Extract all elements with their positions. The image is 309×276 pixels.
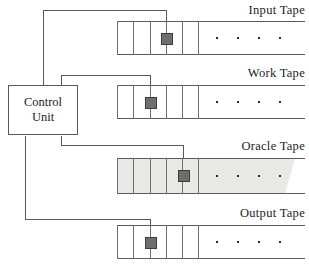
tape-input-cell-divider <box>117 21 118 55</box>
tape-input-cell-divider <box>133 21 134 55</box>
tape-oracle-ellipsis-dot <box>258 175 260 177</box>
tape-oracle-ellipsis-dot <box>237 175 239 177</box>
control-unit-label-line2: Unit <box>32 110 54 125</box>
tape-output-ellipsis-dot <box>258 241 260 243</box>
tape-oracle-cell-divider <box>150 158 151 194</box>
tape-head-input[interactable] <box>161 33 173 45</box>
tape-label-work: Work Tape <box>189 66 305 81</box>
tape-work-ellipsis-dot <box>279 101 281 103</box>
tape-oracle-body <box>117 158 305 194</box>
tape-input-cell-divider <box>182 21 183 55</box>
tape-output-ellipsis-dot <box>279 241 281 243</box>
tape-output-cell-divider <box>117 225 118 259</box>
tape-head-oracle[interactable] <box>178 170 190 182</box>
tape-input-ellipsis-dot <box>258 37 260 39</box>
tape-output-cell-divider <box>182 225 183 259</box>
tape-oracle-ellipsis-dot <box>216 175 218 177</box>
tape-head-work[interactable] <box>145 97 157 109</box>
tape-head-output[interactable] <box>145 237 157 249</box>
tape-output-ellipsis-dot <box>237 241 239 243</box>
tape-work-ellipsis-dot <box>216 101 218 103</box>
tape-work-ellipsis-dot <box>258 101 260 103</box>
tape-work-cell-divider <box>133 85 134 119</box>
tape-oracle-cell-divider <box>198 158 199 194</box>
tape-output-ellipsis-dot <box>216 241 218 243</box>
tape-oracle-cell-divider <box>133 158 134 194</box>
tape-oracle-cell-divider <box>166 158 167 194</box>
tape-label-output: Output Tape <box>189 206 305 221</box>
tape-input-ellipsis-dot <box>279 37 281 39</box>
tape-input-body <box>117 21 305 55</box>
tape-input-ellipsis-dot <box>216 37 218 39</box>
tape-output-cell-divider <box>166 225 167 259</box>
tape-work-cell-divider <box>117 85 118 119</box>
tape-output-cell-divider <box>198 225 199 259</box>
tape-oracle-cell-divider <box>117 158 118 194</box>
tape-work-ellipsis-dot <box>237 101 239 103</box>
control-unit-label-line1: Control <box>24 95 62 110</box>
tape-output-cell-divider <box>133 225 134 259</box>
tape-work-cell-divider <box>182 85 183 119</box>
tape-label-input: Input Tape <box>189 3 305 18</box>
tape-work-cell-divider <box>198 85 199 119</box>
tape-input-ellipsis-dot <box>237 37 239 39</box>
control-unit[interactable]: Control Unit <box>8 85 78 135</box>
tape-oracle-ellipsis-dot <box>279 175 281 177</box>
tape-work-cell-divider <box>166 85 167 119</box>
oracle-turing-machine-diagram: Control Unit Input Tape Work Tape Oracle… <box>0 0 309 276</box>
tape-input-cell-divider <box>198 21 199 55</box>
tape-input-cell-divider <box>150 21 151 55</box>
tape-label-oracle: Oracle Tape <box>189 139 305 154</box>
tape-input[interactable] <box>117 21 305 55</box>
tape-oracle[interactable] <box>117 158 305 194</box>
